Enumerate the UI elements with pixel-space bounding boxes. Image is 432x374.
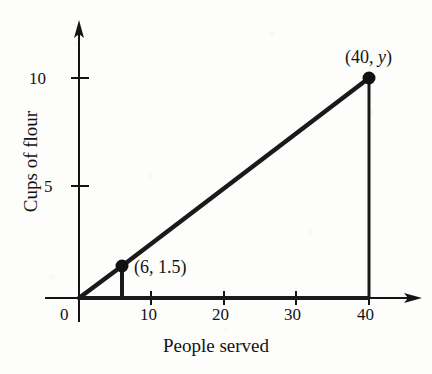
point-label-40-y: (40, y) [345, 48, 392, 66]
point-label-6-1point5: (6, 1.5) [134, 258, 187, 276]
point-label-40-y-suffix: ) [386, 47, 392, 67]
x-tick-label-40: 40 [357, 306, 374, 323]
x-tick-label-20: 20 [212, 306, 229, 323]
x-tick-label-30: 30 [284, 306, 301, 323]
y-axis [74, 20, 84, 322]
x-tick-label-0: 0 [60, 306, 69, 323]
x-tick-label-10: 10 [140, 306, 157, 323]
y-axis-title: Cups of flour [21, 72, 40, 252]
point-label-40-y-prefix: (40, [345, 47, 378, 67]
flour-vs-people-chart: 0 10 20 30 40 10 5 (6, 1.5) (40, y) Peop… [0, 0, 432, 374]
y-tick-label-5: 5 [44, 178, 53, 195]
data-point-6-1point5 [116, 260, 129, 273]
data-point-40-y [363, 72, 376, 85]
point-label-40-y-variable: y [378, 47, 386, 67]
x-axis-title: People served [0, 336, 432, 355]
